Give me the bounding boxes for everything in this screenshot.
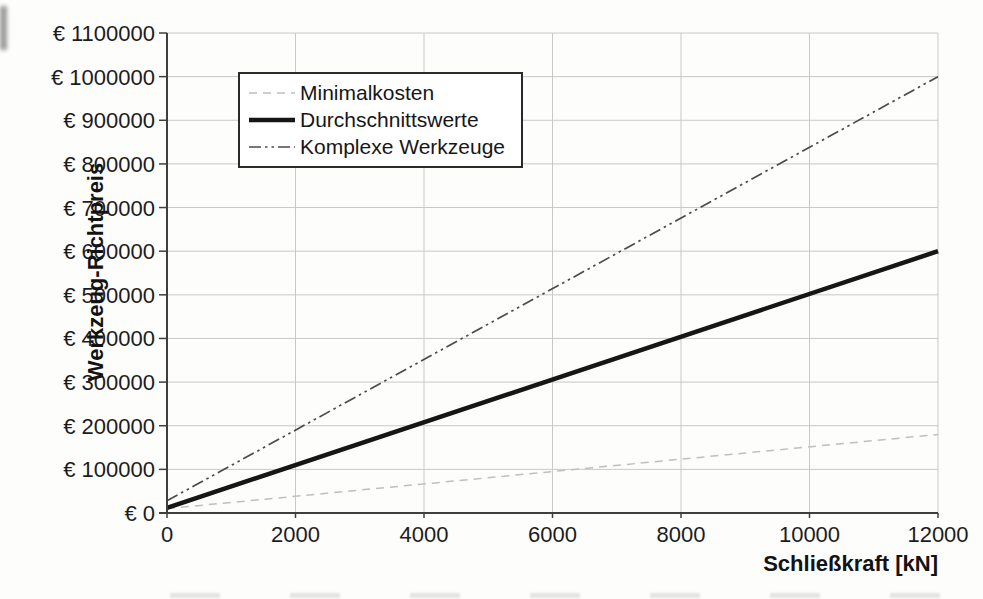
x-tick-label: 8000 bbox=[657, 522, 706, 547]
legend-line-sample-durchschnittswerte bbox=[248, 109, 296, 131]
y-tick-label: € 1100000 bbox=[53, 21, 155, 46]
legend-item-komplexe-werkzeuge: Komplexe Werkzeuge bbox=[248, 133, 513, 160]
x-tick-label: 2000 bbox=[271, 522, 320, 547]
x-tick-label: 4000 bbox=[400, 522, 449, 547]
legend-item-durchschnittswerte: Durchschnittswerte bbox=[248, 106, 513, 133]
legend-item-minimalkosten: Minimalkosten bbox=[248, 79, 513, 106]
y-tick-label: € 900000 bbox=[63, 108, 155, 133]
legend-line-sample-minimalkosten bbox=[248, 82, 296, 104]
y-tick-label: € 200000 bbox=[63, 414, 155, 439]
legend-label-minimalkosten: Minimalkosten bbox=[300, 82, 434, 103]
y-tick-label: € 800000 bbox=[63, 152, 155, 177]
y-tick-label: € 600000 bbox=[63, 239, 155, 264]
x-tick-label: 6000 bbox=[528, 522, 577, 547]
x-axis-title: Schließkraft [kN] bbox=[763, 551, 938, 577]
x-tick-label: 12000 bbox=[907, 522, 968, 547]
x-tick-label: 0 bbox=[161, 522, 173, 547]
chart-figure: € 0€ 100000€ 200000€ 300000€ 400000€ 500… bbox=[0, 0, 983, 599]
legend: MinimalkostenDurchschnittswerteKomplexe … bbox=[238, 72, 523, 168]
y-tick-label: € 500000 bbox=[63, 283, 155, 308]
scan-artifact-bottom bbox=[170, 593, 953, 598]
legend-line-sample-komplexe-werkzeuge bbox=[248, 136, 296, 158]
y-tick-label: € 1000000 bbox=[51, 65, 155, 90]
scan-artifact-top bbox=[0, 6, 7, 50]
y-tick-label: € 300000 bbox=[63, 370, 155, 395]
y-tick-label: € 700000 bbox=[63, 196, 155, 221]
y-axis-title: Werkzeug-Richtpreis bbox=[83, 163, 109, 381]
y-tick-label: € 100000 bbox=[63, 457, 155, 482]
y-tick-label: € 0 bbox=[124, 501, 155, 526]
x-tick-label: 10000 bbox=[779, 522, 840, 547]
legend-label-durchschnittswerte: Durchschnittswerte bbox=[300, 109, 479, 130]
y-tick-label: € 400000 bbox=[63, 326, 155, 351]
legend-label-komplexe-werkzeuge: Komplexe Werkzeuge bbox=[300, 136, 505, 157]
